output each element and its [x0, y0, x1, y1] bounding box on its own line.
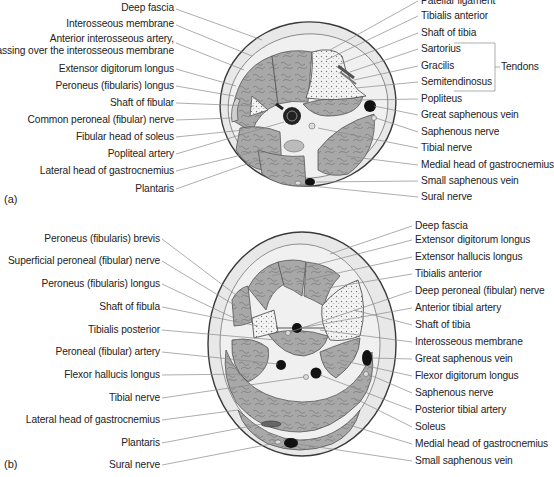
- sural-nerve-b: [275, 440, 281, 444]
- label-patellar-ligament: Patellar ligament: [421, 0, 495, 7]
- label-shaft-of-tibia-b: Shaft of tibia: [415, 319, 470, 331]
- label-tendons-bracket: Tendons: [501, 61, 539, 73]
- label-tibial-nerve-b: Tibial nerve: [109, 392, 160, 404]
- label-peroneus-longus-a: Peroneus (fibularis) longus: [56, 80, 174, 92]
- label-small-saphenous-vein-a: Small saphenous vein: [421, 175, 519, 187]
- peroneal-artery-b: [276, 360, 286, 370]
- small-saphenous-vein-b: [284, 438, 298, 448]
- small-saphenous-vein-a: [305, 178, 315, 186]
- label-great-saphenous-vein-b: Great saphenous vein: [415, 353, 513, 365]
- label-tibialis-anterior-a: Tibialis anterior: [421, 10, 488, 22]
- label-deep-fascia-b: Deep fascia: [415, 220, 468, 232]
- label-peroneal-artery-b: Peroneal (fibular) artery: [55, 346, 160, 358]
- panel-a-tag: (a): [4, 193, 17, 205]
- label-peroneus-longus-b: Peroneus (fibularis) longus: [42, 278, 160, 290]
- label-tibialis-posterior-b: Tibialis posterior: [88, 324, 160, 336]
- label-popliteus: Popliteus: [421, 93, 462, 105]
- label-anterior-interosseous-artery: Anterior interosseous artery,: [50, 33, 174, 45]
- label-interosseous-membrane-a: Interosseous membrane: [66, 18, 174, 30]
- sural-nerve-a: [295, 181, 301, 185]
- posterior-tibial-artery-b: [311, 368, 322, 379]
- plantaris-tendon-b: [261, 421, 281, 427]
- label-interosseous-membrane-b: Interosseous membrane: [415, 336, 523, 348]
- label-lateral-gastrocnemius-b: Lateral head of gastrocnemius: [26, 414, 160, 426]
- label-common-peroneal-nerve: Common peroneal (fibular) nerve: [28, 114, 174, 126]
- label-flexor-hallucis-longus-b: Flexor hallucis longus: [64, 369, 160, 381]
- label-shaft-of-fibula-b: Shaft of fibula: [99, 301, 160, 313]
- label-saphenous-nerve-a: Saphenous nerve: [421, 126, 499, 138]
- label-great-saphenous-vein-a: Great saphenous vein: [421, 109, 519, 121]
- popliteal-artery-a: [283, 107, 301, 125]
- label-semitendinosus: Semitendinosus: [421, 76, 492, 88]
- label-sural-nerve-b: Sural nerve: [109, 459, 160, 471]
- label-tibialis-anterior-b: Tibialis anterior: [415, 268, 482, 280]
- label-sartorius: Sartorius: [421, 43, 461, 55]
- label-superficial-peroneal-nerve-b: Superficial peroneal (fibular) nerve: [8, 255, 160, 267]
- label-flexor-digitorum-longus-b: Flexor digitorum longus: [415, 370, 519, 382]
- label-posterior-tibial-artery-b: Posterior tibial artery: [415, 404, 506, 416]
- label-plantaris-a: Plantaris: [135, 183, 174, 195]
- label-fibular-head-soleus: Fibular head of soleus: [76, 131, 174, 143]
- label-extensor-hallucis-longus-b: Extensor hallucis longus: [415, 251, 522, 263]
- label-gracilis: Gracilis: [421, 60, 454, 72]
- label-medial-gastrocnemius-a: Medial head of gastrocnemius: [421, 159, 554, 171]
- tibial-nerve-b: [304, 375, 309, 380]
- label-extensor-digitorum-longus-a: Extensor digitorum longus: [59, 63, 174, 75]
- panel-b-section: [208, 232, 396, 456]
- saphenous-nerve-b: [364, 372, 369, 377]
- tibial-nerve-a: [309, 123, 315, 129]
- label-deep-fascia-a: Deep fascia: [121, 2, 174, 14]
- label-extensor-digitorum-longus-b: Extensor digitorum longus: [415, 234, 530, 246]
- label-sural-nerve-a: Sural nerve: [421, 191, 472, 203]
- label-lateral-gastrocnemius-a: Lateral head of gastrocnemius: [40, 165, 174, 177]
- label-peroneus-brevis-b: Peroneus (fibularis) brevis: [44, 233, 160, 245]
- great-saphenous-vein-b: [362, 350, 372, 366]
- saphenous-nerve-a: [372, 116, 377, 121]
- label-plantaris-b: Plantaris: [121, 437, 160, 449]
- label-anterior-interosseous-artery-line2: passing over the interosseous membrane: [0, 45, 174, 57]
- tibialis-anterior-region-a: [272, 51, 312, 104]
- label-small-saphenous-vein-b: Small saphenous vein: [415, 455, 513, 467]
- deep-peroneal-nerve-b: [286, 331, 291, 336]
- label-medial-gastrocnemius-b: Medial head of gastrocnemius: [415, 438, 548, 450]
- label-deep-peroneal-nerve-b: Deep peroneal (fibular) nerve: [415, 285, 545, 297]
- label-shaft-of-fibular-a: Shaft of fibular: [110, 97, 174, 109]
- label-popliteal-artery: Popliteal artery: [108, 148, 174, 160]
- label-soleus-b: Soleus: [415, 421, 446, 433]
- label-saphenous-nerve-b: Saphenous nerve: [415, 387, 493, 399]
- label-shaft-of-tibia-a: Shaft of tibia: [421, 27, 476, 39]
- panel-a-section: [209, 11, 406, 198]
- label-anterior-tibial-artery-b: Anterior tibial artery: [415, 302, 501, 314]
- panel-b-tag: (b): [4, 458, 17, 470]
- label-tibial-nerve-a: Tibial nerve: [421, 142, 472, 154]
